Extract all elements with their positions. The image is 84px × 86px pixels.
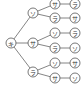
node-label: サ bbox=[30, 40, 36, 47]
level2-node: ラ bbox=[50, 13, 60, 23]
node-label: ソ bbox=[52, 60, 58, 67]
level2-node: サ bbox=[50, 73, 60, 83]
level2-node: ソ bbox=[50, 28, 60, 38]
node-label: ラ bbox=[30, 69, 36, 76]
node-label: キ bbox=[8, 40, 14, 47]
node-label: ラ bbox=[52, 15, 58, 22]
level3-node: ラ bbox=[70, 28, 80, 38]
root-node: キ bbox=[6, 38, 16, 48]
level1-node: ラ bbox=[28, 67, 38, 77]
node-label: ソ bbox=[72, 45, 78, 52]
node-label: サ bbox=[52, 1, 58, 8]
level1-node: サ bbox=[28, 38, 38, 48]
node-label: サ bbox=[72, 15, 78, 22]
level3-node: サ bbox=[70, 58, 80, 68]
level1-node: ソ bbox=[28, 8, 38, 18]
level3-node: ラ bbox=[70, 0, 80, 9]
node-label: ソ bbox=[72, 75, 78, 82]
level3-node: サ bbox=[70, 13, 80, 23]
node-label: ラ bbox=[72, 30, 78, 37]
node-label: サ bbox=[52, 75, 58, 82]
node-label: ラ bbox=[72, 1, 78, 8]
tree-edge bbox=[11, 13, 33, 43]
tree-diagram: キソサラサラソラソサラサラソサソ bbox=[0, 0, 84, 86]
node-label: ソ bbox=[30, 10, 36, 17]
node-label: サ bbox=[72, 60, 78, 67]
node-label: ソ bbox=[52, 30, 58, 37]
level3-node: ソ bbox=[70, 73, 80, 83]
level2-node: サ bbox=[50, 0, 60, 9]
level2-node: ラ bbox=[50, 43, 60, 53]
level3-node: ソ bbox=[70, 43, 80, 53]
level2-node: ソ bbox=[50, 58, 60, 68]
tree-edge bbox=[11, 43, 33, 72]
node-label: ラ bbox=[52, 45, 58, 52]
